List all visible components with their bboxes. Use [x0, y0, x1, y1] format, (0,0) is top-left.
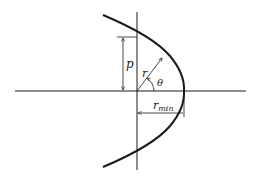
theta-label: θ	[157, 78, 163, 88]
rmin-label-subscript: min	[158, 104, 173, 113]
p-label: p	[126, 58, 134, 70]
theta-angle-arc	[147, 78, 154, 91]
r-label: r	[142, 68, 147, 79]
parabola-diagram: p r θ rmin	[0, 0, 256, 180]
diagram-graphics	[0, 0, 256, 180]
rmin-label: rmin	[153, 100, 174, 113]
